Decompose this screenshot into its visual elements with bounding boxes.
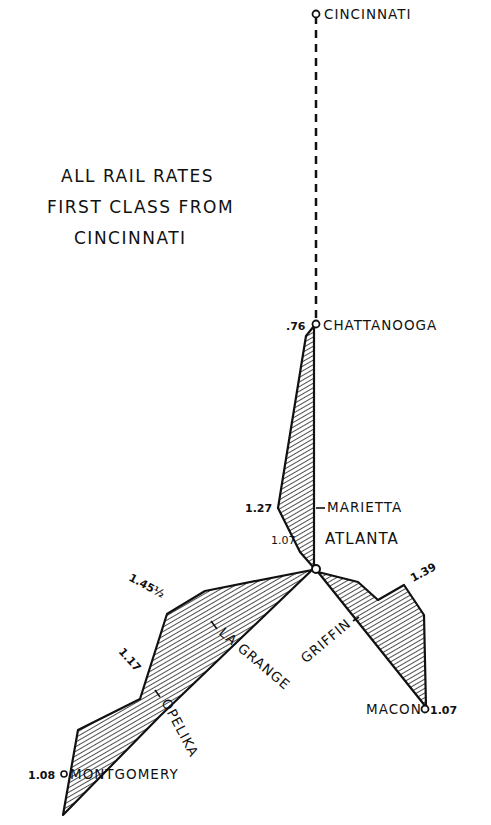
node-montgomery <box>61 771 67 777</box>
label-griffin: GRIFFIN <box>297 615 354 666</box>
route-chattanooga-atlanta <box>278 326 314 568</box>
node-chattanooga <box>313 321 320 328</box>
label-cincinnati: CINCINNATI <box>324 6 412 22</box>
rate-macon: 1.07 <box>430 704 457 717</box>
rate-chattanooga: .76 <box>286 320 306 333</box>
label-marietta: MARIETTA <box>327 499 402 515</box>
rate-marietta: 1.27 <box>245 502 272 515</box>
node-macon <box>422 706 429 713</box>
rate-montgomery: 1.08 <box>28 769 55 782</box>
label-macon: MACON <box>366 701 422 717</box>
node-cincinnati <box>313 11 320 18</box>
rate-diagram: CINCINNATI CHATTANOOGA .76 MARIETTA 1.27… <box>0 0 491 825</box>
rate-atlanta: 1.07 <box>271 534 296 547</box>
label-chattanooga: CHATTANOOGA <box>323 317 437 333</box>
node-atlanta <box>312 565 320 573</box>
label-la-grange: LA GRANGE <box>216 624 294 693</box>
label-atlanta: ATLANTA <box>325 530 399 548</box>
rate-la-grange: 1.45½ <box>127 571 167 601</box>
rate-griffin: 1.39 <box>408 560 438 584</box>
label-opelika: OPELIKA <box>158 696 202 760</box>
rate-opelika: 1.17 <box>116 645 144 674</box>
label-montgomery: MONTGOMERY <box>70 766 179 782</box>
